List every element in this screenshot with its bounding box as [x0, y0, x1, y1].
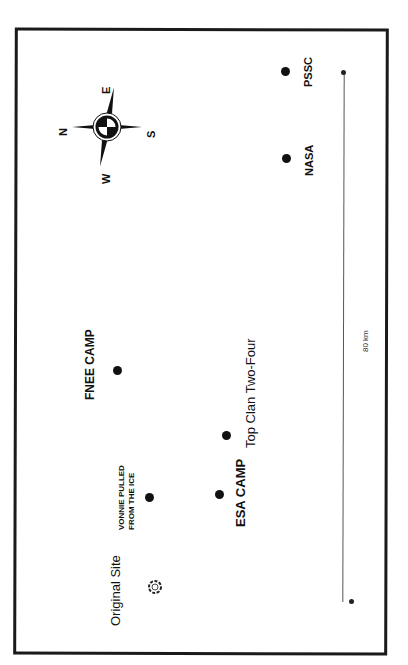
top-clan-label: Top Clan Two-Four [243, 338, 258, 448]
scale-bar-end-bottom [349, 599, 354, 604]
scale-bar-end-top [341, 70, 346, 75]
vonnie-marker[interactable] [145, 493, 154, 502]
esa-camp-label: ESA CAMP [233, 459, 248, 527]
fnee-camp-marker[interactable] [113, 366, 122, 375]
compass-e-label: E [100, 87, 112, 94]
vonnie-label-line2: FROM THE ICE [127, 473, 136, 530]
wreath-icon[interactable] [145, 577, 165, 597]
nasa-marker[interactable] [282, 154, 291, 163]
top-clan-marker[interactable] [222, 431, 231, 440]
esa-camp-marker[interactable] [215, 490, 224, 499]
pssc-label: PSSC [302, 57, 314, 87]
fnee-camp-label: FNEE CAMP [83, 329, 97, 400]
pssc-marker[interactable] [281, 67, 290, 76]
compass-s-label: S [145, 131, 157, 138]
original-site-label: Original Site [108, 555, 123, 626]
compass-n-label: N [57, 128, 69, 136]
vonnie-label-line1: VONNIE PULLED [117, 465, 126, 530]
nasa-label: NASA [303, 145, 315, 176]
compass-w-label: W [100, 174, 112, 184]
scale-bar-label: 80 km [361, 330, 370, 352]
